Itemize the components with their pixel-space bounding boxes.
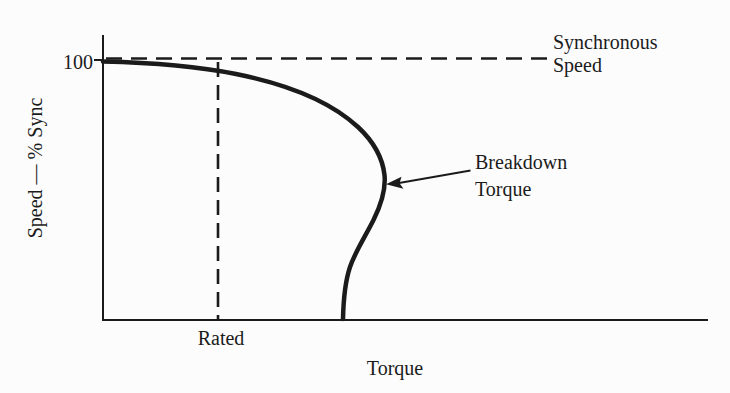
speed-torque-figure: 100 Speed — % Sync Synchronous Speed Bre… [0, 0, 730, 393]
x-axis-label: Torque [367, 357, 423, 380]
synchronous-speed-label-line1: Synchronous [553, 31, 658, 54]
x-tick-label-rated: Rated [198, 327, 245, 349]
y-axis-label: Speed — % Sync [24, 98, 47, 239]
y-tick-label-100: 100 [63, 51, 93, 73]
speed-torque-curve [103, 62, 385, 320]
axes-lines [103, 35, 708, 320]
breakdown-arrow-shaft [399, 171, 471, 184]
synchronous-speed-label-line2: Speed [553, 54, 602, 77]
figure-canvas: 100 Speed — % Sync Synchronous Speed Bre… [0, 0, 730, 393]
breakdown-torque-label-line1: Breakdown [475, 151, 567, 173]
breakdown-torque-label-line2: Torque [475, 178, 531, 201]
